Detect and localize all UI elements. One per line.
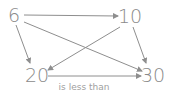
- edge-6-to-20: [16, 25, 30, 63]
- node-20: 20: [25, 64, 49, 86]
- node-10: 10: [118, 5, 142, 27]
- node-30: 30: [141, 64, 165, 86]
- edge-10-to-20: [48, 27, 120, 70]
- edge-10-to-30: [133, 27, 146, 63]
- edge-label-is-less-than: is less than: [59, 82, 110, 92]
- node-6: 6: [8, 4, 20, 26]
- edge-6-to-10: [24, 15, 118, 16]
- relation-diagram: 6 10 20 30 is less than: [0, 0, 170, 96]
